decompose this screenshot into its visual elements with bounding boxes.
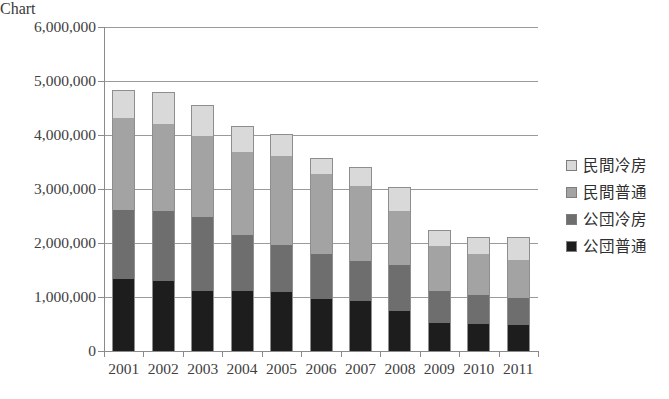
bar-segment-公団冷房-2010	[467, 295, 490, 324]
y-axis-line	[104, 27, 105, 352]
bar-2007	[349, 27, 372, 351]
bar-segment-公団冷房-2001	[112, 210, 135, 279]
bar-2006	[310, 27, 333, 351]
bar-segment-民間冷房-2002	[152, 92, 175, 124]
bar-2005	[270, 27, 293, 351]
bar-segment-公団冷房-2008	[388, 265, 411, 311]
bar-segment-民間冷房-2009	[428, 230, 451, 247]
legend-swatch-icon	[566, 160, 577, 171]
bar-segment-公団普通-2011	[507, 325, 530, 351]
bar-segment-公団普通-2009	[428, 323, 451, 351]
legend-label: 公団普通	[583, 239, 647, 255]
bar-segment-公団冷房-2004	[231, 235, 254, 291]
bar-2004	[231, 27, 254, 351]
bar-segment-公団普通-2002	[152, 281, 175, 351]
bar-segment-公団普通-2005	[270, 292, 293, 351]
bar-segment-民間冷房-2004	[231, 126, 254, 151]
x-axis-label-2008: 2008	[380, 360, 419, 377]
x-axis-tick	[538, 351, 539, 357]
x-axis-label-2005: 2005	[262, 360, 301, 377]
bar-segment-公団冷房-2009	[428, 291, 451, 323]
bar-segment-公団普通-2004	[231, 291, 254, 351]
chart-legend: 民間冷房民間普通公団冷房公団普通	[566, 152, 666, 260]
legend-label: 公団冷房	[583, 212, 647, 228]
y-axis-label: 5,000,000	[4, 73, 96, 89]
bar-segment-民間普通-2007	[349, 186, 372, 261]
bar-segment-民間普通-2001	[112, 118, 135, 210]
y-axis-label: 0	[4, 343, 96, 359]
bar-segment-公団冷房-2005	[270, 245, 293, 292]
bar-segment-民間冷房-2011	[507, 237, 530, 261]
bar-segment-公団冷房-2002	[152, 211, 175, 281]
bar-segment-民間冷房-2001	[112, 90, 135, 118]
x-axis-label-2004: 2004	[222, 360, 261, 377]
y-axis-label: 2,000,000	[4, 235, 96, 251]
bar-segment-民間普通-2006	[310, 174, 333, 254]
legend-swatch-icon	[566, 241, 577, 252]
bar-2003	[191, 27, 214, 351]
legend-item-民間冷房: 民間冷房	[566, 152, 666, 179]
bar-segment-公団普通-2003	[191, 291, 214, 351]
bar-segment-民間冷房-2008	[388, 187, 411, 211]
bar-segment-公団普通-2010	[467, 324, 490, 351]
bar-segment-民間普通-2011	[507, 260, 530, 297]
bar-2009	[428, 27, 451, 351]
bar-2001	[112, 27, 135, 351]
bar-segment-公団冷房-2007	[349, 261, 372, 301]
legend-swatch-icon	[566, 214, 577, 225]
bar-segment-民間普通-2004	[231, 152, 254, 235]
bar-segment-公団冷房-2006	[310, 254, 333, 299]
legend-item-公団冷房: 公団冷房	[566, 206, 666, 233]
x-axis-label-2006: 2006	[301, 360, 340, 377]
stacked-bar-chart: 01,000,0002,000,0003,000,0004,000,0005,0…	[0, 0, 669, 399]
x-axis-label-2003: 2003	[183, 360, 222, 377]
bar-2008	[388, 27, 411, 351]
y-axis-label: 6,000,000	[4, 19, 96, 35]
bar-segment-民間冷房-2007	[349, 167, 372, 185]
bar-segment-民間普通-2009	[428, 246, 451, 291]
bar-segment-公団普通-2006	[310, 299, 333, 351]
legend-label: 民間普通	[583, 185, 647, 201]
bar-segment-民間普通-2010	[467, 254, 490, 295]
plot-area	[104, 27, 538, 351]
bar-segment-民間冷房-2006	[310, 158, 333, 174]
x-axis-label-2010: 2010	[459, 360, 498, 377]
x-axis-label-2007: 2007	[341, 360, 380, 377]
bar-segment-公団冷房-2011	[507, 298, 530, 325]
legend-swatch-icon	[566, 187, 577, 198]
bar-segment-公団普通-2007	[349, 301, 372, 351]
bar-segment-民間冷房-2003	[191, 105, 214, 136]
x-axis-label-2009: 2009	[420, 360, 459, 377]
x-axis-line	[104, 351, 538, 352]
legend-label: 民間冷房	[583, 158, 647, 174]
bar-segment-公団冷房-2003	[191, 217, 214, 291]
y-axis-label: 3,000,000	[4, 181, 96, 197]
bar-segment-民間普通-2008	[388, 211, 411, 266]
x-axis-label-2001: 2001	[104, 360, 143, 377]
bar-2010	[467, 27, 490, 351]
bar-2011	[507, 27, 530, 351]
legend-item-民間普通: 民間普通	[566, 179, 666, 206]
x-axis-label-2011: 2011	[499, 360, 538, 377]
bar-segment-公団普通-2001	[112, 279, 135, 351]
legend-item-公団普通: 公団普通	[566, 233, 666, 260]
bar-segment-民間普通-2003	[191, 136, 214, 217]
y-axis-label: 4,000,000	[4, 127, 96, 143]
bar-2002	[152, 27, 175, 351]
bar-segment-民間普通-2002	[152, 124, 175, 210]
bar-segment-民間冷房-2010	[467, 237, 490, 255]
bar-segment-民間冷房-2005	[270, 134, 293, 155]
bar-segment-公団普通-2008	[388, 311, 411, 351]
y-axis-label: 1,000,000	[4, 289, 96, 305]
bar-segment-民間普通-2005	[270, 156, 293, 246]
x-axis-label-2002: 2002	[143, 360, 182, 377]
